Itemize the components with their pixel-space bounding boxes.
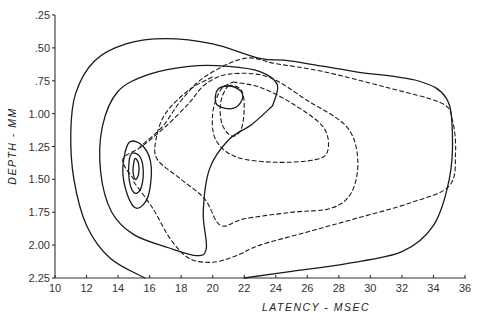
y-tick-label: .50 (35, 42, 50, 54)
contour-solid-peak-left-3 (133, 158, 139, 179)
contour-lines (71, 39, 456, 278)
x-tick-label: 12 (80, 282, 92, 294)
x-tick-label: 22 (238, 282, 250, 294)
x-tick-label: 32 (396, 282, 408, 294)
y-axis-title: DEPTH - MM (6, 107, 18, 184)
x-tick-label: 34 (427, 282, 439, 294)
contour-solid-peak-left-1 (123, 141, 152, 208)
y-tick-label: .25 (35, 9, 50, 21)
contour-chart: 1012141618202224262830323436 .25.50.751.… (0, 0, 481, 321)
x-tick-label: 28 (333, 282, 345, 294)
axes (55, 15, 466, 278)
x-tick-label: 30 (364, 282, 376, 294)
y-tick-label: 2.25 (29, 272, 50, 284)
contour-solid-outer (71, 39, 453, 278)
contour-dashed-outer (134, 58, 456, 262)
contour-dashed-third (123, 73, 358, 226)
x-tick-label: 10 (49, 282, 61, 294)
contour-solid-peak-top (215, 86, 243, 109)
y-tick-label: 1.75 (29, 206, 50, 218)
x-tick-label: 20 (207, 282, 219, 294)
x-tick-label: 14 (112, 282, 124, 294)
x-tick-label: 24 (270, 282, 282, 294)
y-tick-label: 1.25 (29, 141, 50, 153)
y-tick-label: 2.00 (29, 239, 50, 251)
contour-solid-second (100, 65, 278, 255)
x-tick-label: 16 (143, 282, 155, 294)
contour-dashed-inner-top (220, 85, 244, 136)
y-tick-label: 1.50 (29, 173, 50, 185)
x-axis-title: LATENCY - MSEC (262, 301, 370, 313)
x-tick-label: 18 (175, 282, 187, 294)
y-ticks: .25.50.751.001.251.501.752.002.25 (29, 9, 55, 284)
contour-dashed-second (212, 82, 328, 162)
x-tick-label: 26 (301, 282, 313, 294)
y-tick-label: .75 (35, 75, 50, 87)
x-tick-label: 36 (459, 282, 471, 294)
y-tick-label: 1.00 (29, 108, 50, 120)
